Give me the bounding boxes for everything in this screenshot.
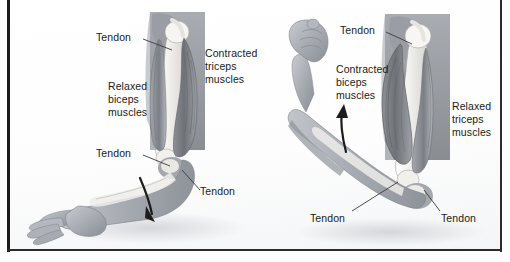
arm-illustrations [0,0,510,262]
anatomy-figure: Tendon Relaxed biceps muscles Contracted… [0,0,510,262]
label-tendon-upper-left: Tendon [96,31,131,44]
page-frame-bottom [7,249,502,251]
label-tendon-bottom-left: Tendon [310,212,345,225]
label-tendon-bottom-right: Tendon [441,212,476,225]
label-tendon-lower-right: Tendon [200,185,235,198]
label-tendon-upper-right: Tendon [340,24,375,37]
page-frame-right [500,0,502,252]
label-relaxed-triceps-muscles: Relaxed triceps muscles [452,100,491,140]
page-frame-left [7,0,10,252]
label-relaxed-biceps-muscles: Relaxed biceps muscles [108,80,147,120]
label-contracted-triceps-muscles: Contracted triceps muscles [205,47,257,87]
label-tendon-elbow-left: Tendon [96,147,131,160]
label-contracted-biceps-muscles: Contracted biceps muscles [336,63,388,103]
